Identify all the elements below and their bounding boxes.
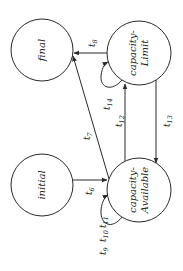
- state-capacity-limit-label-2: Limit: [139, 39, 150, 68]
- edge-t7: [73, 56, 109, 179]
- label-t11: t11: [98, 216, 110, 228]
- state-capacity-available: capacity- Available: [107, 158, 171, 222]
- state-diagram: final capacity- Limit initial capacity- …: [0, 0, 183, 271]
- state-capacity-limit-label-1: capacity-: [127, 29, 138, 75]
- label-t9: t9: [98, 247, 110, 255]
- label-t10: t10: [98, 230, 110, 242]
- state-capacity-available-label-2: Available: [139, 167, 150, 214]
- state-initial-label: initial: [36, 170, 47, 199]
- state-final-label: final: [36, 39, 47, 62]
- label-t12: t12: [114, 115, 126, 127]
- state-capacity-limit: capacity- Limit: [107, 21, 171, 85]
- state-initial: initial: [11, 154, 73, 216]
- label-t8: t8: [87, 39, 99, 47]
- label-t13: t13: [162, 115, 174, 127]
- label-t14: t14: [102, 98, 114, 110]
- state-capacity-available-label-1: capacity-: [127, 166, 138, 212]
- state-final: final: [11, 19, 73, 81]
- label-t6: t6: [84, 187, 96, 195]
- label-t7: t7: [82, 131, 94, 140]
